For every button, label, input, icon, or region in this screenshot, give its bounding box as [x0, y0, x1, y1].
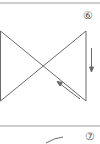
figure-number-6: ⑥	[83, 10, 93, 21]
arrow-up-left-icon	[57, 82, 80, 100]
figure-7-curve	[46, 137, 63, 143]
arrow-down-icon	[90, 48, 94, 72]
figure-6-bowtie	[1, 31, 87, 101]
figure-number-7: ⑦	[85, 131, 95, 142]
